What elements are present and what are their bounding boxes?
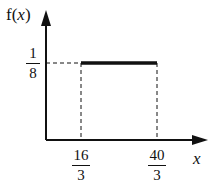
y-axis-label: f(x) bbox=[6, 6, 31, 23]
chart-plot bbox=[0, 0, 219, 195]
x-tick-label-2: 40 3 bbox=[148, 148, 166, 183]
x-tick-denominator: 3 bbox=[77, 168, 85, 183]
x-axis-arrow-icon bbox=[192, 135, 208, 145]
y-tick-numerator: 1 bbox=[29, 46, 37, 61]
x-tick-denominator: 3 bbox=[153, 168, 161, 183]
y-label-suffix: ) bbox=[25, 5, 31, 24]
x-tick-numerator: 40 bbox=[150, 148, 165, 163]
y-tick-denominator: 8 bbox=[29, 66, 37, 81]
x-axis-label: x bbox=[193, 150, 201, 167]
y-tick-label: 1 8 bbox=[26, 46, 40, 81]
x-tick-label-1: 16 3 bbox=[72, 148, 90, 183]
x-tick-numerator: 16 bbox=[74, 148, 89, 163]
y-label-var: x bbox=[17, 5, 25, 24]
fraction-bar bbox=[72, 165, 90, 166]
y-label-prefix: f( bbox=[6, 5, 17, 24]
fraction-bar bbox=[26, 63, 40, 64]
fraction-bar bbox=[148, 165, 166, 166]
y-axis-arrow-icon bbox=[41, 10, 51, 26]
